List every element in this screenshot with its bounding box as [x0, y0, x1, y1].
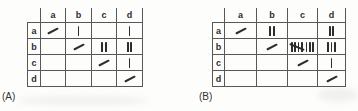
cell-b-a [225, 39, 257, 55]
cell-b-c [92, 39, 117, 55]
cell-d-d [318, 71, 346, 87]
cell-d-d [117, 71, 143, 87]
tally-marks [269, 26, 274, 36]
col-header-c: c [92, 8, 117, 23]
col-header-a: a [41, 8, 66, 23]
cell-d-b [66, 71, 92, 87]
tally-marks [129, 26, 131, 36]
scan-smudge [18, 96, 148, 105]
slash-icon [235, 27, 247, 34]
cell-c-a [225, 55, 257, 71]
caption-b: (B) [199, 91, 212, 102]
slash-icon [47, 27, 59, 34]
cell-c-a [41, 55, 66, 71]
cell-a-c [92, 23, 117, 39]
cell-d-a [41, 71, 66, 87]
corner-cell [27, 8, 41, 23]
cell-b-b [66, 39, 92, 55]
tally-marks [129, 58, 131, 68]
tally-marks [329, 26, 334, 36]
cell-d-c [288, 71, 318, 87]
cell-a-c [288, 23, 318, 39]
slash-icon [266, 43, 278, 50]
scan-smudge [318, 88, 358, 102]
cell-b-d [117, 39, 143, 55]
slash-icon [73, 43, 85, 50]
cell-c-d [117, 55, 143, 71]
col-header-a: a [225, 8, 257, 23]
slash-icon [98, 59, 110, 66]
matrix-table-b: abcdabcd [212, 8, 346, 87]
cell-c-d [318, 55, 346, 71]
cell-a-b [257, 23, 288, 39]
row-header-b: b [212, 39, 225, 55]
matrix-table-a: abcdabcd [27, 8, 143, 87]
tally-marks [101, 42, 106, 52]
cell-a-a [225, 23, 257, 39]
cell-b-b [257, 39, 288, 55]
row-header-a: a [27, 23, 41, 39]
cell-a-d [318, 23, 346, 39]
row-header-d: d [212, 71, 225, 87]
tally-marks [291, 42, 315, 52]
row-header-a: a [212, 23, 225, 39]
cell-c-c [92, 55, 117, 71]
row-header-c: c [27, 55, 41, 71]
cell-c-b [257, 55, 288, 71]
corner-cell [212, 8, 225, 23]
col-header-b: b [257, 8, 288, 23]
row-header-d: d [27, 71, 41, 87]
cell-b-a [41, 39, 66, 55]
row-header-b: b [27, 39, 41, 55]
cell-d-b [257, 71, 288, 87]
col-header-c: c [288, 8, 318, 23]
slash-icon [326, 75, 338, 82]
tally-marks [327, 42, 336, 52]
cell-a-d [117, 23, 143, 39]
cell-d-a [225, 71, 257, 87]
slash-icon [124, 75, 136, 82]
cell-b-c [288, 39, 318, 55]
col-header-b: b [66, 8, 92, 23]
slash-icon [297, 59, 309, 66]
cell-c-c [288, 55, 318, 71]
cell-a-b [66, 23, 92, 39]
cell-c-b [66, 55, 92, 71]
tally-marks [331, 58, 333, 68]
cell-b-d [318, 39, 346, 55]
row-header-c: c [212, 55, 225, 71]
caption-a: (A) [2, 91, 15, 102]
tally-five-group [291, 42, 303, 52]
tally-marks [127, 42, 132, 52]
tally-marks [78, 26, 80, 36]
cell-d-c [92, 71, 117, 87]
col-header-d: d [117, 8, 143, 23]
col-header-d: d [318, 8, 346, 23]
cell-a-a [41, 23, 66, 39]
